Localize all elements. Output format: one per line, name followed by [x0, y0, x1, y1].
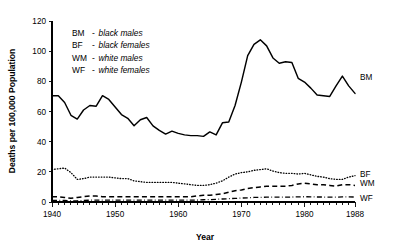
y-axis-title: Deaths per 100,000 Population [7, 49, 17, 174]
y-tick-label: 0 [41, 198, 46, 207]
legend-key-wf: WF [72, 65, 85, 75]
legend-key-wm: WM [72, 53, 87, 63]
x-tick-label: 1980 [295, 210, 314, 219]
data-series-group [52, 40, 355, 201]
legend-key-bf: BF [72, 40, 83, 50]
legend-key-bm: BM [72, 28, 85, 38]
x-tick-label: 1950 [106, 210, 125, 219]
line-chart: 020406080100120 194019501960197019801988… [0, 0, 397, 244]
series-line-bf [52, 168, 355, 185]
x-tick-label: 1940 [43, 210, 62, 219]
x-axis-tick-labels: 194019501960197019801988 [43, 210, 365, 219]
legend-description-bm: black males [99, 28, 144, 38]
y-tick-label: 80 [37, 77, 47, 86]
chart-legend: BM-black malesBF-black femalesWM-white m… [72, 28, 151, 75]
x-axis-ticks [52, 202, 355, 207]
legend-separator: - [92, 28, 95, 38]
y-axis-tick-labels: 020406080100120 [32, 17, 46, 207]
series-end-labels: BMBFWMWF [360, 73, 375, 203]
series-end-label-bf: BF [360, 170, 370, 179]
y-tick-label: 60 [37, 108, 47, 117]
legend-description-bf: black females [99, 40, 151, 50]
series-end-label-wm: WM [360, 179, 375, 188]
series-end-label-wf: WF [360, 194, 373, 203]
x-tick-label: 1960 [169, 210, 188, 219]
series-line-bm [52, 40, 355, 137]
y-tick-label: 40 [37, 138, 47, 147]
legend-description-wm: white males [99, 53, 144, 63]
legend-separator: - [92, 65, 95, 75]
x-axis-title: Year [196, 232, 215, 242]
series-end-label-bm: BM [360, 73, 372, 82]
legend-separator: - [92, 40, 95, 50]
legend-separator: - [92, 53, 95, 63]
chart-figure: 020406080100120 194019501960197019801988… [0, 0, 397, 244]
y-tick-label: 20 [37, 168, 47, 177]
legend-description-wf: white females [99, 65, 151, 75]
y-tick-label: 100 [32, 47, 46, 56]
x-tick-label: 1970 [232, 210, 251, 219]
y-tick-label: 120 [32, 17, 46, 26]
series-line-wf [52, 197, 355, 201]
x-tick-label: 1988 [346, 210, 365, 219]
